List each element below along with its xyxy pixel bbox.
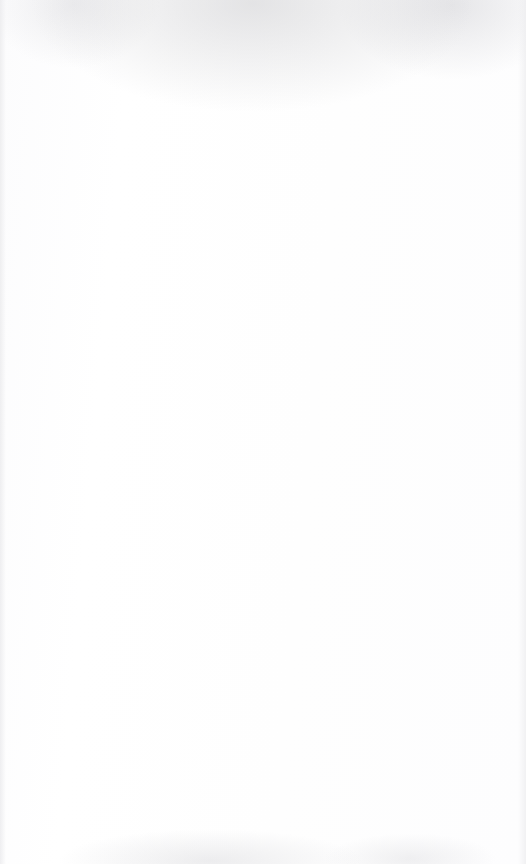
rule-line	[4, 334, 519, 335]
rule-line	[4, 295, 519, 296]
ruling-lines	[0, 0, 526, 864]
rule-line	[4, 412, 519, 413]
rule-line	[4, 528, 519, 529]
rule-line	[4, 567, 519, 568]
rule-line	[4, 179, 519, 180]
rule-line	[4, 799, 519, 800]
rule-line	[4, 644, 519, 645]
rule-line	[4, 218, 519, 219]
rule-line	[4, 373, 519, 374]
rule-line	[4, 140, 519, 141]
rule-line	[4, 683, 519, 684]
rule-line	[4, 822, 519, 823]
rule-line	[4, 63, 519, 64]
rule-line	[4, 760, 519, 761]
rule-line	[4, 450, 519, 451]
notebook-page	[0, 0, 526, 864]
rule-line	[4, 489, 519, 490]
rule-line	[4, 102, 519, 103]
rule-line	[4, 722, 519, 723]
rule-line	[4, 605, 519, 606]
rule-line	[4, 257, 519, 258]
